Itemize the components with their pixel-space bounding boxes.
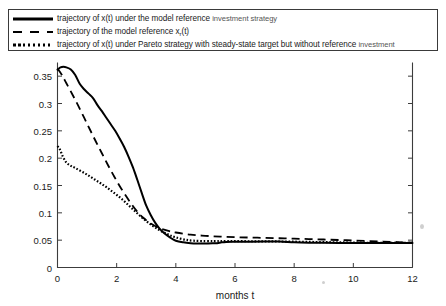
dotted-line-sample-icon bbox=[13, 39, 53, 50]
scan-speck bbox=[420, 224, 424, 229]
scan-speck bbox=[322, 281, 325, 284]
x-tick-label: 2 bbox=[114, 273, 119, 284]
y-tick-label: 0.05 bbox=[14, 235, 52, 246]
x-tick-label: 4 bbox=[173, 273, 178, 284]
solid-line-sample-icon bbox=[13, 13, 53, 24]
chart-legend: trajectory-solidtrajectory of x(t) under… bbox=[8, 9, 438, 51]
dashed-line-sample-icon bbox=[13, 26, 53, 37]
x-axis-title: months t bbox=[216, 290, 254, 301]
legend-text-main-0: trajectory of x(t) under the model refer… bbox=[57, 14, 212, 23]
x-tick-label: 12 bbox=[407, 273, 418, 284]
data-series bbox=[58, 67, 413, 244]
axes bbox=[58, 63, 413, 268]
legend-text-tail-1: (t) bbox=[181, 27, 189, 36]
legend-item-pareto-strategy: trajectory of x(t) under Pareto strategy… bbox=[13, 38, 395, 51]
legend-item-model-reference-strategy: trajectory-solidtrajectory of x(t) under… bbox=[13, 12, 277, 25]
legend-text-faded-2: investment bbox=[358, 40, 394, 49]
y-tick-label: 0 bbox=[14, 262, 52, 273]
legend-text-main-2: trajectory of x(t) under Pareto strategy… bbox=[57, 40, 358, 49]
y-tick-label: 0.15 bbox=[14, 180, 52, 191]
x-tick-label: 0 bbox=[55, 273, 60, 284]
legend-text-faded-0: investment strategy bbox=[212, 14, 277, 23]
legend-text-main-1: trajectory of the model reference x bbox=[57, 27, 180, 36]
y-tick-label: 0.2 bbox=[14, 153, 52, 164]
figure-container: trajectory-solidtrajectory of x(t) under… bbox=[0, 0, 446, 306]
x-tick-label: 10 bbox=[348, 273, 359, 284]
legend-label-2: trajectory of x(t) under Pareto strategy… bbox=[57, 40, 395, 50]
y-tick-label: 0.1 bbox=[14, 207, 52, 218]
series-line-model-reference bbox=[58, 69, 413, 243]
y-tick-label: 0.3 bbox=[14, 98, 52, 109]
y-tick-label: 0.25 bbox=[14, 125, 52, 136]
legend-item-model-reference: trajectory of the model reference xr(t) bbox=[13, 25, 189, 38]
x-tick-label: 8 bbox=[292, 273, 297, 284]
series-line-pareto-no-reference bbox=[58, 146, 413, 243]
legend-label-1: trajectory of the model reference xr(t) bbox=[57, 27, 189, 37]
legend-label-0: trajectory-solidtrajectory of x(t) under… bbox=[57, 14, 277, 24]
y-tick-label: 0.35 bbox=[14, 71, 52, 82]
series-line-trajectory-solid bbox=[58, 67, 413, 244]
x-tick-label: 6 bbox=[232, 273, 237, 284]
